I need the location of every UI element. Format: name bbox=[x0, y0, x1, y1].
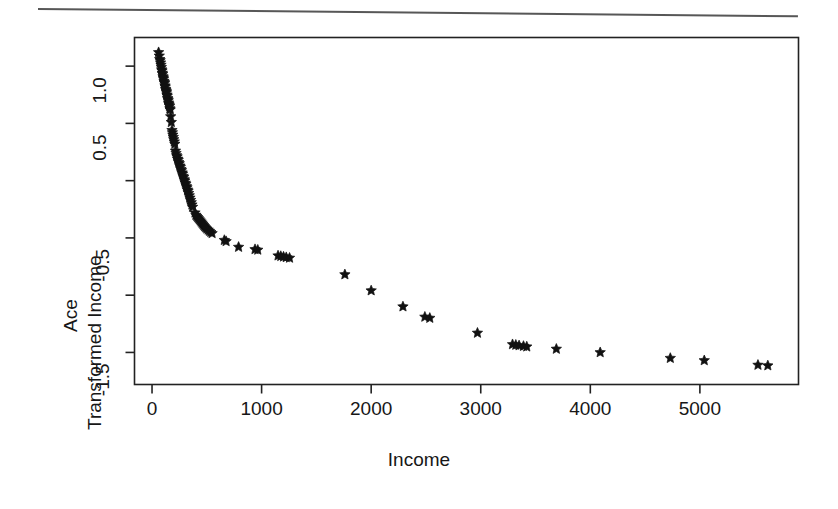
y-axis-title: Ace Transformed Income bbox=[30, 100, 74, 330]
plot-canvas bbox=[0, 0, 838, 509]
x-tick-label: 4000 bbox=[569, 398, 611, 420]
x-axis-title: Income bbox=[0, 449, 838, 471]
y-axis-ticks bbox=[126, 66, 135, 352]
x-axis-ticks bbox=[152, 385, 700, 394]
y-tick-label: 1.0 bbox=[89, 77, 111, 103]
plot-frame bbox=[135, 38, 799, 385]
plot-border bbox=[135, 38, 799, 385]
x-tick-label: 0 bbox=[147, 398, 158, 420]
y-tick-label: 0.5 bbox=[89, 134, 111, 160]
scatter-plot-figure: 010002000300040005000 1.00.5-0.5-1.5 Ace… bbox=[0, 0, 838, 509]
y-axis-title-line-2: Transformed Income bbox=[84, 255, 106, 430]
x-tick-label: 3000 bbox=[460, 398, 502, 420]
x-tick-label: 1000 bbox=[240, 398, 282, 420]
y-axis-title-line-1: Ace bbox=[60, 299, 82, 332]
x-tick-label: 2000 bbox=[350, 398, 392, 420]
x-tick-label: 5000 bbox=[679, 398, 721, 420]
